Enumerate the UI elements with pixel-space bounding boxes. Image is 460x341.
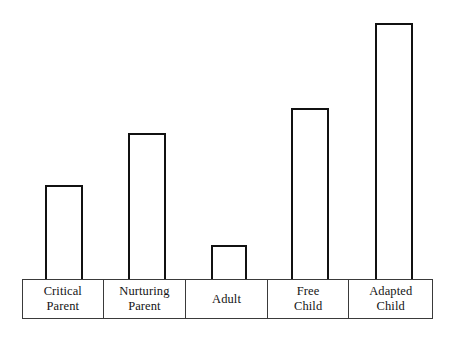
- category-label-free-child: Free Child: [268, 280, 350, 318]
- egogram-bar-chart: Critical Parent Nurturing Parent Adult F…: [0, 0, 460, 341]
- category-label-nurturing-parent: Nurturing Parent: [104, 280, 187, 318]
- category-label-critical-parent: Critical Parent: [23, 280, 104, 318]
- category-label-table: Critical Parent Nurturing Parent Adult F…: [22, 279, 433, 319]
- category-label-adult: Adult: [186, 280, 268, 318]
- category-label-adapted-child: Adapted Child: [349, 280, 432, 318]
- bar-adult: [211, 245, 247, 279]
- bar-free-child: [291, 108, 329, 279]
- bar-nurturing-parent: [128, 133, 166, 279]
- bar-adapted-child: [375, 23, 413, 279]
- bar-critical-parent: [45, 185, 83, 279]
